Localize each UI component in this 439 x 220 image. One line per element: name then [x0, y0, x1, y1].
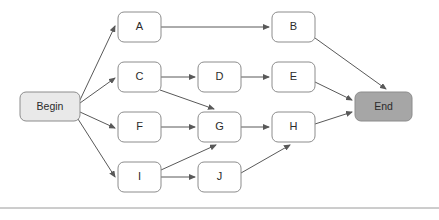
node-begin[interactable]: Begin	[20, 92, 80, 121]
edges-layer	[78, 26, 386, 177]
node-end[interactable]: End	[355, 92, 412, 121]
node-box-b[interactable]	[272, 12, 315, 42]
node-box-end[interactable]	[355, 92, 412, 121]
node-box-c[interactable]	[118, 62, 161, 92]
diagram-canvas: BeginABCDEFGHIJEnd	[0, 0, 439, 220]
node-i[interactable]: I	[118, 162, 161, 192]
node-box-begin[interactable]	[20, 92, 80, 121]
node-a[interactable]: A	[118, 12, 161, 42]
nodes-layer: BeginABCDEFGHIJEnd	[20, 12, 412, 192]
node-h[interactable]: H	[272, 112, 315, 142]
node-e[interactable]: E	[272, 62, 315, 92]
edge-j-to-h	[241, 145, 290, 173]
node-box-a[interactable]	[118, 12, 161, 42]
edge-b-to-end	[315, 38, 386, 89]
node-box-j[interactable]	[198, 162, 241, 192]
edge-begin-to-i	[78, 119, 115, 177]
node-box-h[interactable]	[272, 112, 315, 142]
flowchart-svg: BeginABCDEFGHIJEnd	[0, 0, 439, 220]
node-box-g[interactable]	[198, 112, 241, 142]
node-c[interactable]: C	[118, 62, 161, 92]
node-j[interactable]: J	[198, 162, 241, 192]
edge-begin-to-f	[80, 112, 115, 128]
node-box-d[interactable]	[198, 62, 241, 92]
node-d[interactable]: D	[198, 62, 241, 92]
edge-begin-to-a	[80, 26, 115, 100]
node-box-i[interactable]	[118, 162, 161, 192]
edge-c-to-g	[160, 90, 214, 109]
node-g[interactable]: G	[198, 112, 241, 142]
node-b[interactable]: B	[272, 12, 315, 42]
node-box-f[interactable]	[118, 112, 161, 142]
edge-e-to-end	[315, 82, 352, 100]
edge-begin-to-c	[80, 78, 115, 103]
edge-h-to-end	[315, 112, 352, 124]
node-f[interactable]: F	[118, 112, 161, 142]
node-box-e[interactable]	[272, 62, 315, 92]
